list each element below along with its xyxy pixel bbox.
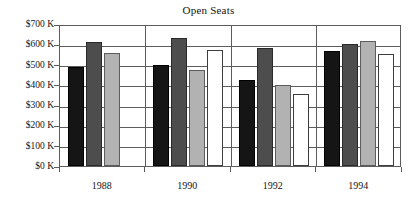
y-axis-tick-label: $400 K xyxy=(0,80,54,90)
x-axis-tick-mark xyxy=(315,167,316,172)
bar-1988-series-2 xyxy=(86,42,102,166)
bar-1994-series-3 xyxy=(360,41,376,166)
y-axis-tick-label: $200 K xyxy=(0,120,54,130)
group-divider xyxy=(145,26,146,166)
x-axis-tick-label: 1992 xyxy=(233,180,313,192)
y-axis-tick-label: $0 K xyxy=(0,161,54,171)
bar-chart-figure: Open Seats $0 K$100 K$200 K$300 K$400 K$… xyxy=(0,0,417,211)
bar-1990-series-2 xyxy=(171,38,187,166)
x-axis-tick-label: 1988 xyxy=(62,180,142,192)
bar-1994-series-4 xyxy=(378,54,394,166)
bar-1992-series-1 xyxy=(239,80,255,166)
bar-1992-series-3 xyxy=(275,85,291,166)
bar-1994-series-2 xyxy=(342,44,358,166)
bar-1992-series-2 xyxy=(257,48,273,166)
y-axis-tick-label: $100 K xyxy=(0,141,54,151)
chart-title: Open Seats xyxy=(0,4,417,17)
plot-area xyxy=(59,25,401,167)
bar-1988-series-3 xyxy=(104,53,120,166)
bar-1990-series-4 xyxy=(207,50,223,166)
bar-1988-series-1 xyxy=(68,67,84,166)
group-divider xyxy=(316,26,317,166)
bar-1990-series-3 xyxy=(189,70,205,166)
x-axis-tick-label: 1994 xyxy=(318,180,398,192)
x-axis-tick-mark xyxy=(230,167,231,172)
x-axis-tick-mark xyxy=(401,167,402,172)
bar-1994-series-1 xyxy=(324,51,340,166)
y-axis-tick-label: $500 K xyxy=(0,60,54,70)
y-axis-tick-label: $700 K xyxy=(0,19,54,29)
x-axis-tick-mark xyxy=(59,167,60,172)
y-axis-tick-label: $600 K xyxy=(0,39,54,49)
y-axis-tick-label: $300 K xyxy=(0,100,54,110)
group-divider xyxy=(231,26,232,166)
x-axis-tick-mark xyxy=(144,167,145,172)
bar-1992-series-4 xyxy=(293,94,309,166)
x-axis-tick-label: 1990 xyxy=(147,180,227,192)
bar-1990-series-1 xyxy=(153,65,169,166)
